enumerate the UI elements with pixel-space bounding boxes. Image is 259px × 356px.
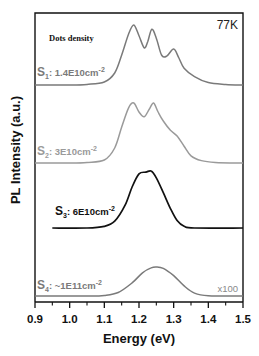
x-tick-label: 1.1 — [96, 313, 113, 325]
spectrum-curve-s3 — [52, 171, 243, 228]
pl-spectra-chart: 0.91.01.11.21.31.41.5 PL Intensity (a.u.… — [0, 0, 259, 356]
y-axis-label: PL Intensity (a.u.) — [8, 96, 23, 204]
spectra-curves — [35, 25, 243, 296]
x-axis-ticks: 0.91.01.11.21.31.41.5 — [27, 302, 252, 325]
x-tick-label: 1.0 — [62, 313, 78, 325]
x-tick-label: 1.4 — [200, 313, 217, 325]
series-labels: S1: 1.4E10cm-2S2: 3E10cm-2S3: 6E10cm-2S4… — [37, 65, 115, 293]
series-label-s4: S4: ~1E11cm-2 — [37, 278, 102, 293]
x-tick-label: 0.9 — [27, 313, 43, 325]
legend-title: Dots density — [49, 33, 94, 43]
x-tick-label: 1.5 — [235, 313, 252, 325]
series-label-s3: S3: 6E10cm-2 — [55, 204, 115, 219]
x-axis-label: Energy (eV) — [103, 331, 175, 346]
plot-frame — [35, 13, 243, 302]
scale-note: x100 — [217, 283, 238, 294]
x-tick-label: 1.3 — [166, 313, 182, 325]
series-label-s1: S1: 1.4E10cm-2 — [37, 65, 105, 80]
temperature-label: 77K — [217, 18, 238, 32]
x-tick-label: 1.2 — [131, 313, 147, 325]
series-label-s2: S2: 3E10cm-2 — [37, 144, 97, 159]
